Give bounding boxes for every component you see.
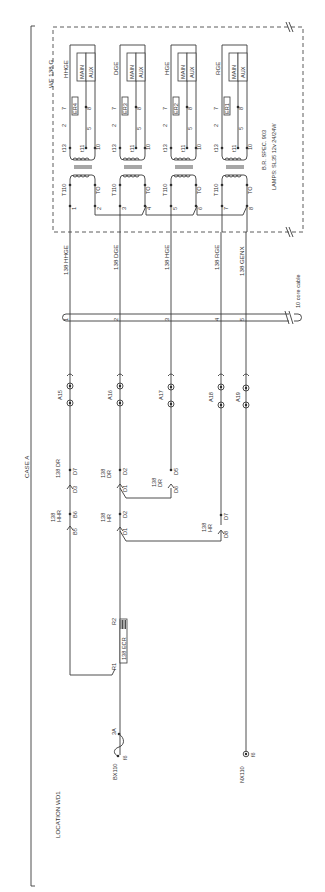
ecr-r2: R2 bbox=[111, 618, 117, 625]
cable-break-mark bbox=[285, 311, 293, 324]
svg-text:8: 8 bbox=[136, 107, 142, 110]
wire-label-dge: 138 DGE bbox=[112, 245, 119, 270]
core-number: 4 bbox=[214, 318, 220, 321]
svg-text:DR: DR bbox=[157, 479, 163, 487]
cable-end-right bbox=[294, 314, 302, 321]
location-label: LOCATION WD1 bbox=[54, 791, 61, 838]
t110-label: T110 bbox=[61, 184, 67, 196]
svg-text:2: 2 bbox=[111, 124, 117, 127]
ecr-r1: R1 bbox=[111, 663, 117, 670]
svg-text:5: 5 bbox=[238, 127, 244, 130]
aux-label: AUX bbox=[88, 66, 94, 78]
aspect-label: DGE bbox=[112, 62, 119, 75]
svg-text:7: 7 bbox=[111, 107, 117, 110]
out-terminal: 4 bbox=[146, 207, 152, 210]
svg-text:10: 10 bbox=[247, 144, 253, 150]
wire-label-rge: 138 RGE bbox=[213, 245, 220, 270]
terminal-label: A17 bbox=[158, 390, 164, 400]
t110-label: T110 bbox=[162, 184, 168, 196]
neutral-nx110: f6 NX110 bbox=[239, 751, 256, 783]
contact-front-label: D7 bbox=[223, 513, 229, 520]
panel-label: WF 138 G bbox=[47, 60, 54, 88]
svg-text:t13: t13 bbox=[111, 144, 117, 152]
contact-front-label: B6 bbox=[72, 511, 78, 518]
terminal-links: A15 A16 A17 A18 A19 bbox=[57, 374, 249, 408]
main-label: MAIN bbox=[231, 65, 237, 79]
svg-text:2: 2 bbox=[162, 124, 168, 127]
wire-hhge bbox=[70, 232, 115, 675]
svg-text:8: 8 bbox=[187, 107, 193, 110]
to-label: TO bbox=[95, 186, 101, 194]
svg-text:HHR: HHR bbox=[56, 510, 62, 522]
cable-label: 10 core cable bbox=[295, 274, 301, 308]
svg-text:DR: DR bbox=[106, 470, 112, 478]
contact-back-label: D6 bbox=[173, 486, 179, 493]
aspect-label: RGE bbox=[214, 62, 221, 75]
contact-front-label: D5 bbox=[173, 468, 179, 475]
relay-group-rge: MAIN AUX RGE ER1 8 7 2 5 t13 t11 10 T110… bbox=[213, 45, 254, 232]
contact-front-label: D2 bbox=[122, 511, 128, 518]
aspect-label: HGE bbox=[163, 62, 170, 75]
core-number: 3 bbox=[164, 318, 170, 321]
main-label: MAIN bbox=[180, 65, 186, 79]
fuse-bx110: 3A f6 BX110 bbox=[111, 728, 128, 780]
out-terminal: 8 bbox=[248, 207, 254, 210]
er-relay-label: ER3 bbox=[122, 103, 128, 114]
ecr-label: 138 ECR bbox=[121, 637, 127, 660]
wire-label-hge: 138 HGE bbox=[163, 245, 170, 270]
svg-text:t11: t11 bbox=[129, 145, 135, 152]
fuse-label: BX110 bbox=[112, 764, 118, 780]
svg-text:7: 7 bbox=[162, 107, 168, 110]
to-label: TO bbox=[247, 186, 253, 194]
in-terminal: 1 bbox=[71, 207, 77, 210]
aspect-label: HHGE bbox=[62, 60, 69, 78]
spec-label: B.R. SPEC. 903 bbox=[261, 130, 267, 170]
contact-front-label: D7 bbox=[72, 468, 78, 475]
svg-text:t11: t11 bbox=[180, 145, 186, 152]
contact-back-label: D1 bbox=[122, 528, 128, 535]
contact-relay-label: 138 DR bbox=[55, 459, 61, 478]
er-relay-label: ER2 bbox=[173, 103, 179, 114]
terminal-label: A15 bbox=[57, 390, 63, 400]
svg-text:7: 7 bbox=[61, 107, 67, 110]
t110-label: T110 bbox=[111, 184, 117, 196]
contact-dr-d7-d3: 138 DR D7 D3 bbox=[55, 459, 78, 493]
out-terminal: 6 bbox=[197, 207, 203, 210]
in-terminal: 3 bbox=[121, 207, 127, 210]
contact-back-label: D1 bbox=[122, 485, 128, 492]
out-terminal: 2 bbox=[96, 207, 102, 210]
svg-text:2: 2 bbox=[61, 124, 67, 127]
to-label: TO bbox=[196, 186, 202, 194]
fuse-terminal: f6 bbox=[122, 755, 128, 760]
contact-hr-d7-d8: 138 HR D7 D8 bbox=[201, 513, 229, 538]
to-label: TO bbox=[145, 186, 151, 194]
neutral-terminal: f6 bbox=[250, 752, 256, 757]
terminal-label: A18 bbox=[208, 392, 214, 402]
t110-label: T110 bbox=[213, 184, 219, 196]
svg-text:t13: t13 bbox=[61, 144, 67, 152]
svg-text:t13: t13 bbox=[213, 144, 219, 152]
case-label: CASE A bbox=[23, 455, 30, 478]
svg-text:10: 10 bbox=[95, 144, 101, 150]
wire-label-hhge: 138 HHGE bbox=[62, 245, 69, 275]
core-number: 1 bbox=[63, 318, 69, 321]
terminal-label: A19 bbox=[235, 392, 241, 402]
svg-text:10: 10 bbox=[196, 144, 202, 150]
contact-front-label: D2 bbox=[122, 468, 128, 475]
er-relay-label: ER4 bbox=[72, 103, 78, 114]
svg-text:7: 7 bbox=[213, 107, 219, 110]
svg-text:10: 10 bbox=[145, 144, 151, 150]
frame-border bbox=[31, 26, 35, 886]
in-terminal: 7 bbox=[223, 207, 229, 210]
cable-band bbox=[66, 314, 289, 321]
contact-back-label: D8 bbox=[223, 531, 229, 538]
svg-text:2: 2 bbox=[213, 124, 219, 127]
wire-label-genx: 138 GENX bbox=[238, 246, 245, 276]
main-label: MAIN bbox=[79, 65, 85, 79]
svg-text:5: 5 bbox=[86, 127, 92, 130]
svg-text:t11: t11 bbox=[231, 145, 237, 152]
svg-text:HR: HR bbox=[207, 524, 213, 532]
in-terminal: 5 bbox=[172, 207, 178, 210]
contact-back-label: B5 bbox=[72, 528, 78, 535]
svg-text:5: 5 bbox=[136, 127, 142, 130]
